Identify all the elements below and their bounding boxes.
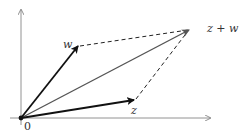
w-label: w [63,38,73,51]
z-label: z [130,104,137,117]
origin-dot [19,116,24,121]
w-vector-arrow [21,46,78,118]
dashed-z-to-sum [136,31,188,99]
origin-label: 0 [24,120,31,132]
parallelogram-diagram: w z z + w 0 [0,0,248,132]
dashed-w-to-sum [80,30,188,46]
sum-label: z + w [206,22,239,35]
